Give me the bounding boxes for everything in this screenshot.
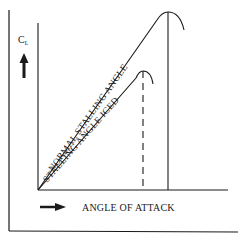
x-axis-label: ANGLE OF ATTACK [82,202,175,213]
arrow-right-icon [40,203,66,211]
outer-frame-bottom [9,231,238,232]
y-axis-label: CL [18,34,29,46]
iced-curve-label: STALLING ANGLE ICED [41,95,121,184]
lift-vs-angle-of-attack-diagram: NORMAL STALLING ANGLE STALLING ANGLE ICE… [0,0,246,244]
arrow-up-icon [20,53,29,78]
